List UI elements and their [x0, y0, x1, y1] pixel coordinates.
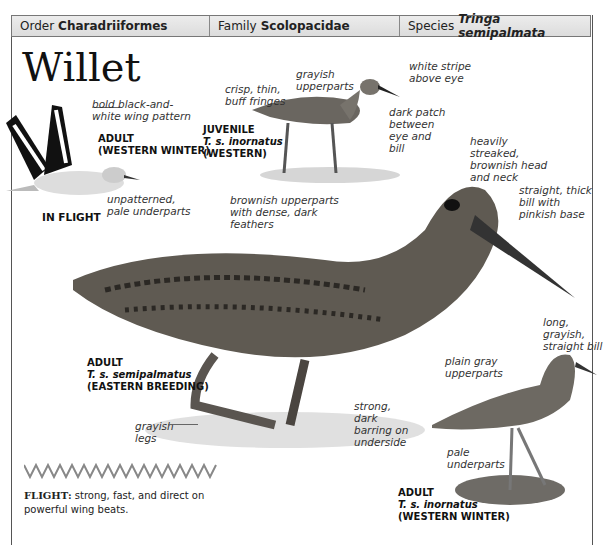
order-cell: OrderCharadriiformes: [12, 16, 210, 36]
western-winter-label: ADULTT. s. inornatus(WESTERN WINTER): [398, 487, 510, 523]
flight-description: FLIGHT: strong, fast, and direct on powe…: [24, 489, 214, 517]
grayish-upperparts-note: grayish upperparts: [296, 68, 356, 92]
leader-line: [168, 424, 198, 425]
order-value: Charadriiformes: [58, 19, 167, 33]
family-cell: FamilyScolopacidae: [210, 16, 400, 36]
brownish-upperparts-note: brownish upperparts with dense, dark fea…: [230, 194, 345, 230]
taxonomy-header: OrderCharadriiformes FamilyScolopacidae …: [11, 15, 591, 37]
streaked-head-note: heavily streaked, brownish head and neck: [470, 135, 560, 183]
order-label: Order: [20, 19, 54, 33]
species-label: Species: [408, 19, 454, 33]
family-label: Family: [218, 19, 257, 33]
species-cell: SpeciesTringa semipalmata: [400, 16, 590, 36]
dark-patch-note: dark patch between eye and bill: [389, 106, 449, 154]
eastern-breeding-label: ADULTT. s. semipalmatus(EASTERN BREEDING…: [87, 357, 209, 393]
family-value: Scolopacidae: [261, 19, 350, 33]
flight-label: FLIGHT:: [24, 490, 72, 501]
in-flight-age-label: ADULT(WESTERN WINTER): [98, 133, 210, 157]
species-value: Tringa semipalmata: [458, 12, 545, 40]
buff-fringes-note: crisp, thin, buff fringes: [225, 83, 295, 107]
flight-pattern-zigzag-icon: [24, 463, 220, 479]
wing-pattern-note: bold black-and-white wing pattern: [92, 98, 192, 122]
plain-upperparts-note: plain gray upperparts: [445, 355, 505, 379]
page-title: Willet: [22, 44, 141, 90]
thick-bill-note: straight, thick bill with pinkish base: [519, 184, 594, 220]
juvenile-label: JUVENILET. s. inornatus(WESTERN): [203, 124, 283, 160]
grayish-bill-note: long, grayish, straight bill: [543, 316, 603, 352]
white-stripe-note: white stripe above eye: [409, 60, 479, 84]
dark-barring-note: strong, dark barring on underside: [354, 400, 414, 448]
pale-underparts-note: pale underparts: [447, 446, 502, 470]
